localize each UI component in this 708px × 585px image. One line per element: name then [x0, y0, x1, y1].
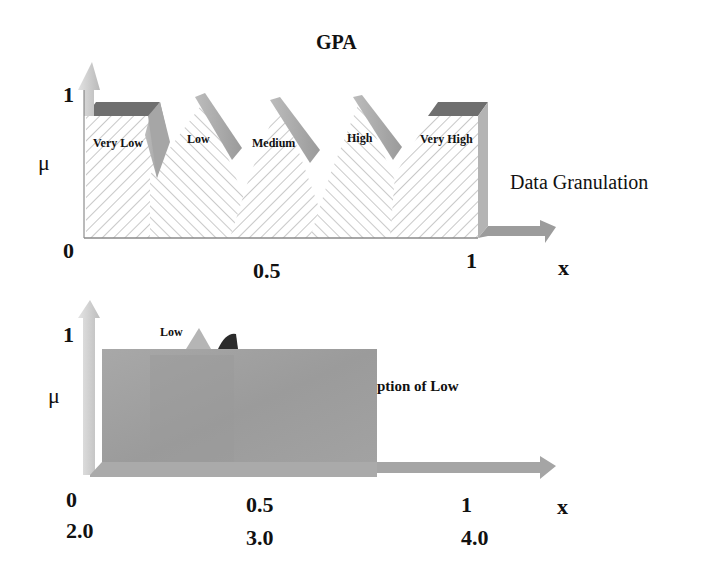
x-tick-0-5: 0.5 — [246, 492, 274, 518]
y-tick-0: 0 — [66, 487, 77, 513]
y-axis-label: μ — [48, 383, 60, 409]
description-of-low-note: ption of Low — [377, 378, 459, 395]
y-axis-arrow — [78, 300, 100, 475]
x-tick-1: 1 — [461, 492, 472, 518]
bottom-chart-graphic — [0, 0, 708, 585]
gpa-tick-2-0: 2.0 — [66, 518, 94, 544]
x-axis-arrow — [377, 456, 556, 479]
set-label-low: Low — [160, 325, 183, 340]
dark-peak — [218, 334, 238, 349]
low-block — [102, 349, 377, 476]
gpa-tick-4-0: 4.0 — [461, 525, 489, 551]
y-tick-1: 1 — [63, 322, 74, 348]
gpa-tick-3-0: 3.0 — [246, 525, 274, 551]
x-axis-label: x — [557, 494, 568, 520]
low-peak — [186, 328, 211, 349]
